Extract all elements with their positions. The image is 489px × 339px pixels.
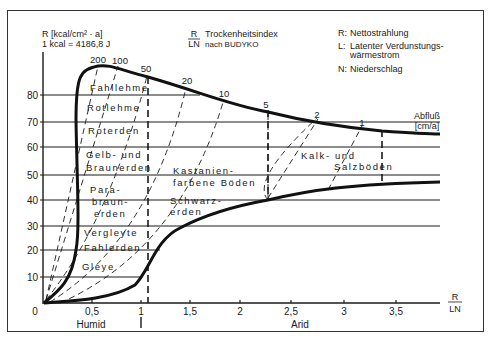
- index-text: Trockenheitsindex: [205, 29, 278, 39]
- svg-text:L:: L:: [338, 41, 346, 51]
- runoff-unit: [cm/a]: [415, 121, 440, 131]
- soil-zone-chart: 10 20 30 40 50 60 70 80 0 0,5 1 1,5 2 2,…: [0, 0, 489, 339]
- x-label-denominator: LN: [449, 304, 461, 314]
- zone-erden: erden: [94, 208, 126, 219]
- x-label-numerator: R: [452, 292, 459, 302]
- zone-braun: braun-: [92, 196, 129, 207]
- x-tick-0-5: 0,5: [85, 306, 99, 317]
- isoline-100: 100: [112, 55, 128, 66]
- zone-schwarz: Schwarz-: [170, 195, 222, 206]
- y-tick-70: 70: [27, 117, 39, 128]
- zone-vergleyte: Vergleyte: [84, 227, 138, 238]
- y-tick-20: 20: [27, 245, 39, 256]
- zone-gelb: Gelb- und: [86, 149, 142, 160]
- zone-braunerden: Braunerden: [86, 162, 152, 173]
- isoline-5: 5: [263, 99, 268, 110]
- zone-gleye: Gleye: [82, 261, 115, 272]
- zone-fahllehme: Fahllehme: [90, 82, 149, 93]
- x-tick-2: 2: [237, 306, 243, 317]
- zone-rotlehme: Rotlehme: [87, 102, 140, 113]
- zone-fahlerden: Fahlerden: [84, 242, 141, 253]
- y-axis-label: R [kcal/cm² · a]: [42, 29, 103, 39]
- y-axis-note: 1 kcal = 4186,8 J: [42, 39, 110, 49]
- legend-n: Niederschlag: [350, 64, 403, 74]
- humid-label: Humid: [77, 319, 106, 330]
- zone-kalk: Kalk- und: [301, 150, 356, 161]
- x-tick-2-5: 2,5: [284, 306, 298, 317]
- y-tick-10: 10: [27, 272, 39, 283]
- isoline-200: 200: [90, 54, 106, 65]
- isoline-10: 10: [219, 88, 230, 99]
- x-tick-1: 1: [138, 306, 144, 317]
- y-tick-60: 60: [27, 142, 39, 153]
- runoff-label: Abfluß: [414, 111, 441, 121]
- zone-farbene-boeden: farbene Böden: [173, 177, 256, 188]
- index-denominator: LN: [188, 39, 200, 49]
- zone-kastanien: Kastanien-: [173, 165, 234, 176]
- x-tick-1-5: 1,5: [183, 306, 197, 317]
- x-tick-3: 3: [341, 306, 347, 317]
- x-tick-0: 0: [32, 306, 38, 317]
- legend-l-2: wärmestrom: [349, 50, 400, 60]
- isoline-50: 50: [141, 63, 152, 74]
- legend-r: Nettostrahlung: [350, 28, 409, 38]
- arid-label: Arid: [291, 319, 309, 330]
- y-tick-30: 30: [27, 221, 39, 232]
- svg-text:R:: R:: [338, 28, 347, 38]
- svg-text:N:: N:: [338, 64, 347, 74]
- y-tick-50: 50: [27, 170, 39, 181]
- index-source: nach BUDYKO: [205, 40, 258, 49]
- y-tick-80: 80: [27, 90, 39, 101]
- zone-roterden: Roterden: [88, 125, 140, 136]
- x-tick-3-5: 3,5: [389, 306, 403, 317]
- index-numerator: R: [191, 29, 198, 39]
- y-tick-40: 40: [27, 195, 39, 206]
- zone-schwarz-erden: erden: [170, 206, 202, 217]
- zone-para: Para-: [90, 184, 121, 195]
- isoline-20: 20: [182, 75, 193, 86]
- isoline-1: 1: [359, 117, 364, 128]
- zone-salzboeden: Salzböden: [334, 161, 393, 172]
- isoline-2: 2: [314, 109, 319, 120]
- legend: R: Nettostrahlung L: Latenter Verdunstun…: [338, 28, 444, 74]
